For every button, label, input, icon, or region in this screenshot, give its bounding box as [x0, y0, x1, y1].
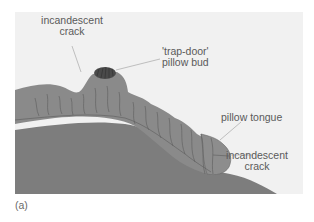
label-trap-door-pillow-bud: 'trap-door' pillow bud [162, 46, 209, 68]
figure-panel-label: (a) [15, 199, 28, 211]
diagram-panel: incandescent crack 'trap-door' pillow bu… [15, 12, 303, 194]
label-incandescent-crack-top: incandescent crack [37, 15, 107, 37]
label-pillow-tongue: pillow tongue [221, 112, 282, 123]
label-incandescent-crack-right: incandescent crack [219, 150, 295, 172]
